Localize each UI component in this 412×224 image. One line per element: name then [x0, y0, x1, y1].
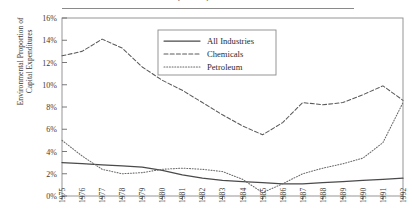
legend-label-petroleum: Petroleum — [207, 62, 243, 72]
figure-container: Capital Expenditures Environmental Propo… — [0, 0, 412, 224]
x-tick-label: 1987 — [299, 188, 308, 203]
x-tick-label: 1988 — [319, 188, 328, 203]
y-tick-label: 2% — [46, 170, 57, 179]
x-tick-label: 1982 — [198, 188, 207, 203]
line-chart-plot: 0%2%4%6%8%10%12%14%16%197519761977197819… — [0, 0, 412, 224]
x-tick-label: 1991 — [379, 188, 388, 203]
y-tick-label: 10% — [42, 81, 57, 90]
x-tick-label: 1990 — [359, 188, 368, 203]
y-tick-label: 16% — [42, 14, 57, 23]
x-tick-label: 1976 — [78, 188, 87, 203]
x-tick-label: 1977 — [98, 188, 107, 203]
x-tick-label: 1975 — [58, 188, 67, 203]
x-tick-label: 1981 — [178, 188, 187, 203]
x-tick-label: 1985 — [259, 188, 268, 203]
x-tick-label: 1978 — [118, 188, 127, 203]
series-line-all-industries — [62, 163, 403, 184]
y-tick-label: 0% — [46, 192, 57, 201]
x-tick-label: 1979 — [138, 188, 147, 203]
x-tick-label: 1989 — [339, 188, 348, 203]
y-tick-label: 4% — [46, 148, 57, 157]
x-tick-label: 1980 — [158, 188, 167, 203]
series-line-petroleum — [62, 103, 403, 193]
x-tick-label: 1992 — [399, 188, 408, 203]
y-tick-label: 8% — [46, 103, 57, 112]
legend-label-all-industries: All Industries — [207, 36, 255, 46]
x-tick-label: 1986 — [279, 188, 288, 203]
y-tick-label: 12% — [42, 59, 57, 68]
y-tick-label: 14% — [42, 36, 57, 45]
y-tick-label: 6% — [46, 125, 57, 134]
x-tick-label: 1983 — [218, 188, 227, 203]
legend-label-chemicals: Chemicals — [207, 49, 244, 59]
x-tick-label: 1984 — [239, 188, 248, 203]
